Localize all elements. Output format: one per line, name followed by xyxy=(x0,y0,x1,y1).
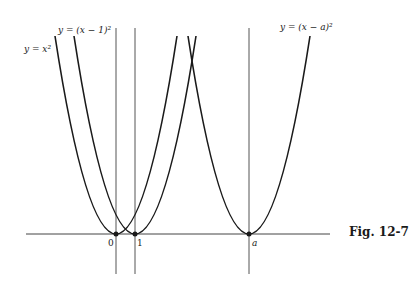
vertex-dot-1 xyxy=(133,232,138,237)
figure-caption: Fig. 12-7 xyxy=(349,225,409,239)
label-x-squared: y = x² xyxy=(23,44,51,54)
label-x-minus-a-squared: y = (x − a)² xyxy=(279,22,333,32)
tick-label-a: a xyxy=(252,238,257,248)
vertex-dot-0 xyxy=(114,232,119,237)
tick-label-0: 0 xyxy=(108,238,114,248)
tick-label-1: 1 xyxy=(137,238,143,248)
label-x-minus-1-squared: y = (x − 1)² xyxy=(57,25,111,35)
vertex-dot-a xyxy=(247,232,252,237)
parabola-diagram: y = x² y = (x − 1)² y = (x − a)² 0 1 a F… xyxy=(0,0,417,285)
